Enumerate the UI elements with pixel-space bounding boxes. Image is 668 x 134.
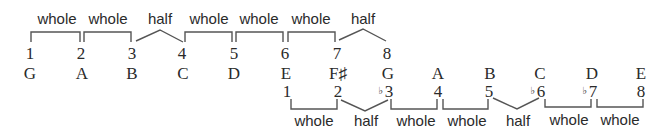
bracket-whole	[391, 99, 437, 109]
note-name: E	[636, 64, 646, 83]
degree-number: 2	[334, 82, 343, 101]
note-name: G	[382, 64, 394, 83]
bracket-whole	[545, 99, 591, 107]
bracket-half	[136, 30, 183, 42]
step-label: whole	[599, 111, 639, 128]
bracket-whole	[185, 32, 232, 42]
degree-number: 7	[589, 82, 598, 101]
degree-number: 8	[383, 44, 392, 63]
note-name: C	[177, 64, 188, 83]
step-label: half	[506, 112, 531, 129]
step-label: whole	[87, 10, 127, 27]
bracket-whole	[443, 99, 488, 109]
step-label: whole	[290, 10, 330, 27]
bracket-whole	[291, 99, 337, 109]
step-label: half	[354, 112, 379, 129]
bracket-whole	[31, 32, 80, 42]
degree-number: 3	[128, 44, 137, 63]
degree-number: 8	[637, 82, 646, 101]
bracket-whole	[84, 32, 131, 42]
note-name: A	[76, 64, 89, 83]
major-step-brackets	[31, 29, 386, 42]
diagram-canvas: whole whole half whole whole whole half …	[0, 0, 668, 134]
degree-number: 5	[485, 82, 494, 101]
note-name: A	[432, 64, 445, 83]
degree-number: 3	[385, 82, 394, 101]
degree-number: 6	[281, 44, 290, 63]
bracket-half	[339, 29, 386, 41]
step-label: half	[148, 10, 173, 27]
minor-step-labels: whole half whole whole half whole whole	[293, 111, 639, 129]
major-degrees: 1 2 3 4 5 6 7 8	[26, 44, 392, 63]
degree-number: 5	[230, 44, 239, 63]
note-name: D	[228, 64, 240, 83]
degree-number: 4	[434, 82, 443, 101]
degree-number: 2	[77, 44, 86, 63]
step-label: whole	[395, 112, 435, 129]
note-name: C	[534, 64, 545, 83]
minor-degrees: 1 2 ♭ 3 4 5 ♭ 6 ♭ 7 8	[283, 82, 646, 101]
bracket-whole	[288, 32, 335, 42]
bracket-half	[493, 98, 539, 109]
degree-number: 1	[283, 82, 292, 101]
step-label: whole	[188, 10, 228, 27]
step-label: whole	[36, 10, 76, 27]
flat-sign: ♭	[378, 85, 383, 96]
flat-sign: ♭	[582, 85, 587, 96]
degree-number: 1	[26, 44, 35, 63]
step-label: half	[351, 10, 376, 27]
note-name: F♯	[329, 64, 347, 83]
flat-sign: ♭	[530, 85, 535, 96]
note-name: B	[126, 64, 137, 83]
bracket-half	[341, 100, 388, 111]
scale-diagram: whole whole half whole whole whole half …	[0, 0, 668, 134]
step-label: whole	[446, 112, 486, 129]
degree-number: 4	[178, 44, 187, 63]
step-label: whole	[293, 112, 333, 129]
major-step-labels: whole whole half whole whole whole half	[36, 10, 376, 27]
step-label: whole	[238, 10, 278, 27]
step-label: whole	[548, 111, 588, 128]
note-name: D	[586, 64, 598, 83]
note-name: B	[484, 64, 495, 83]
note-names: G A B C D E F♯ G A B C D E	[24, 64, 646, 83]
note-name: E	[281, 64, 291, 83]
note-name: G	[24, 64, 36, 83]
bracket-whole	[236, 32, 283, 42]
degree-number: 7	[333, 44, 342, 63]
